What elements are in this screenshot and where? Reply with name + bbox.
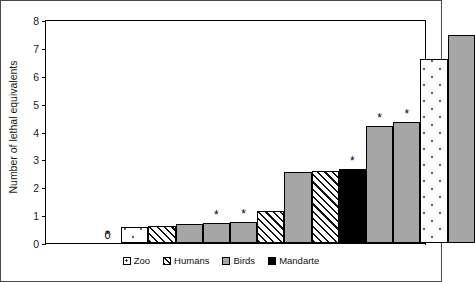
significance-asterisk-10: * (350, 155, 355, 167)
y-tick-5 (42, 105, 46, 106)
legend-swatch-icon-humans (163, 257, 171, 265)
legend-label: Birds (233, 255, 255, 266)
significance-asterisk-5: * (214, 209, 219, 221)
bar-11 (366, 126, 393, 243)
bar-6 (230, 222, 257, 243)
y-tick-6 (42, 77, 46, 78)
y-axis-title: Number of lethal equivalents (7, 22, 19, 232)
y-tick-1 (42, 216, 46, 217)
y-tick-label-1: 1 (33, 211, 39, 222)
significance-asterisk-6: * (241, 208, 246, 220)
significance-asterisk-11: * (377, 112, 382, 124)
y-tick-label-0: 0 (33, 239, 39, 250)
bar-2 (121, 227, 148, 243)
legend-item-mandarte: Mandarte (268, 255, 319, 266)
y-tick-3 (42, 160, 46, 161)
bar-3 (148, 226, 175, 243)
y-tick-2 (42, 188, 46, 189)
y-tick-label-7: 7 (33, 44, 39, 55)
y-tick-label-4: 4 (33, 127, 39, 138)
legend-item-birds: Birds (222, 255, 255, 266)
legend-label: Zoo (134, 255, 150, 266)
y-tick-label-3: 3 (33, 155, 39, 166)
legend-item-zoo: Zoo (123, 255, 150, 266)
bar-7 (257, 211, 284, 243)
y-tick-label-6: 6 (33, 72, 39, 83)
legend-swatch-icon-mandarte (268, 257, 276, 265)
bar-13 (420, 59, 447, 243)
bar-14 (448, 35, 475, 243)
legend-swatch-icon-birds (222, 257, 230, 265)
y-tick-label-2: 2 (33, 183, 39, 194)
plot-area: 012345678 0 ****** (45, 21, 426, 244)
legend-item-humans: Humans (163, 255, 209, 266)
bar-12 (393, 122, 420, 243)
y-tick-7 (42, 49, 46, 50)
legend-label: Humans (174, 255, 209, 266)
y-tick-4 (42, 133, 46, 134)
significance-asterisk-1: * (105, 229, 110, 241)
chart-legend: ZooHumansBirdsMandarte (1, 255, 441, 266)
bar-9 (312, 171, 339, 243)
bar-4 (176, 224, 203, 244)
significance-asterisk-12: * (404, 108, 409, 120)
bar-5 (203, 223, 230, 243)
legend-swatch-icon-zoo (123, 257, 131, 265)
y-tick-label-8: 8 (33, 16, 39, 27)
legend-label: Mandarte (279, 255, 319, 266)
y-tick-label-5: 5 (33, 99, 39, 110)
bar-8 (284, 172, 311, 243)
y-tick-0 (42, 244, 46, 245)
bar-10 (339, 169, 366, 243)
y-tick-8 (42, 21, 46, 22)
